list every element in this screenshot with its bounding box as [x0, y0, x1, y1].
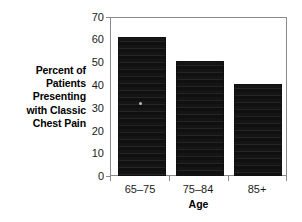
y-tick-mark-70: [106, 17, 110, 18]
x-axis-title: Age: [110, 198, 287, 210]
x-tick-mark-3: [286, 176, 287, 181]
y-axis-title: Percent of Patients Presenting with Clas…: [0, 64, 86, 130]
y-axis-title-line: Presenting: [0, 90, 86, 103]
y-axis-title-line: with Classic: [0, 104, 86, 117]
x-tick-label-75-84: 75–84: [166, 183, 230, 195]
x-tick-mark-1: [169, 176, 170, 181]
y-axis-title-line: Chest Pain: [0, 117, 86, 130]
y-axis-title-line: Percent of: [0, 64, 86, 77]
x-tick-mark-2: [228, 176, 229, 181]
y-tick-label-30: 30: [78, 103, 104, 114]
x-tick-label-85-plus: 85+: [225, 183, 289, 195]
bar-85-plus: [234, 84, 282, 176]
bar-artifact-speck: [139, 102, 142, 105]
y-tick-label-20: 20: [78, 126, 104, 137]
y-tick-label-60: 60: [78, 34, 104, 45]
x-tick-label-65-75: 65–75: [108, 183, 172, 195]
y-tick-label-10: 10: [78, 148, 104, 159]
y-tick-label-70: 70: [78, 12, 104, 23]
y-tick-label-50: 50: [78, 57, 104, 68]
x-tick-mark-0: [110, 176, 111, 181]
bar-75-84: [176, 61, 224, 176]
y-axis-title-line: Patients: [0, 77, 86, 90]
y-tick-label-0: 0: [78, 171, 104, 182]
y-tick-label-40: 40: [78, 80, 104, 91]
bar-65-75: [118, 37, 166, 176]
bar-chart-figure: Percent of Patients Presenting with Clas…: [0, 0, 302, 222]
